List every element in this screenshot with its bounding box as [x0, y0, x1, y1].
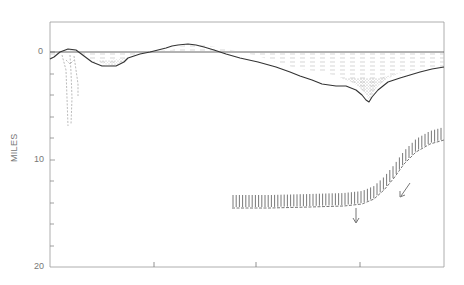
diagonal-arrow-icon: [400, 183, 410, 197]
y-axis-title: MILES: [9, 133, 19, 162]
cross-section-diagram: [0, 0, 464, 285]
y-tick-label-0: 0: [38, 46, 43, 56]
y-tick-label-20: 20: [34, 261, 44, 271]
x-axis-ticks: [154, 262, 360, 267]
island-root: [62, 55, 78, 126]
y-tick-label-10: 10: [34, 154, 44, 164]
y-axis-ticks: [50, 52, 55, 246]
descending-slab: [232, 128, 444, 208]
down-arrow-icon: [353, 208, 359, 223]
